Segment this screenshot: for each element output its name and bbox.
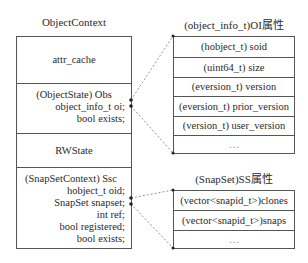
- ss-corner-dot: [172, 189, 175, 192]
- oi-anchor-dot-2: [129, 104, 133, 108]
- ss-top-connector: [131, 190, 173, 198]
- oi-anchor-dot: [129, 98, 133, 102]
- oi-top-connector: [131, 36, 173, 100]
- oi-corner-dot-2: [172, 152, 175, 155]
- ss-bottom-connector: [131, 204, 173, 248]
- connector-lines: [0, 0, 308, 263]
- ss-anchor-dot: [129, 196, 133, 200]
- ss-anchor-dot-2: [129, 202, 133, 206]
- oi-bottom-connector: [131, 106, 173, 153]
- ss-corner-dot-2: [172, 247, 175, 250]
- oi-corner-dot: [172, 35, 175, 38]
